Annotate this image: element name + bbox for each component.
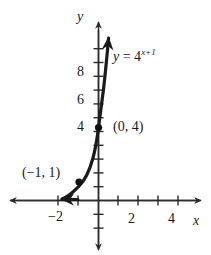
y-tick-label-4: 4 bbox=[77, 120, 84, 134]
graph-figure: y x 8 6 4 −2 2 4 y = 4x+1 (0, 4) (−1, 1) bbox=[0, 0, 211, 255]
equation-annotation: y = 4x+1 bbox=[113, 48, 156, 64]
x-axis-label: x bbox=[193, 214, 199, 228]
y-tick-label-8: 8 bbox=[77, 65, 84, 79]
x-tick-label-minus2: −2 bbox=[48, 210, 63, 224]
x-tick-label-4: 4 bbox=[168, 212, 175, 226]
point-label-0-4: (0, 4) bbox=[113, 120, 143, 134]
equation-operator: = 4 bbox=[119, 49, 141, 64]
point-marker-0-4 bbox=[95, 124, 102, 131]
point-marker-minus1-1 bbox=[75, 178, 82, 185]
y-axis-label: y bbox=[77, 10, 83, 24]
x-tick-label-2: 2 bbox=[128, 212, 135, 226]
equation-exponent: x+1 bbox=[141, 47, 156, 57]
point-label-minus1-1: (−1, 1) bbox=[22, 166, 60, 180]
y-tick-label-6: 6 bbox=[77, 93, 84, 107]
coordinate-plane-svg bbox=[0, 0, 211, 255]
